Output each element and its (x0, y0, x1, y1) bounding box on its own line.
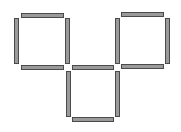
matchstick-vertical (14, 18, 19, 64)
matchstick-horizontal (121, 12, 164, 17)
matchstick-vertical (165, 18, 170, 64)
matchstick-vertical (115, 71, 120, 117)
matchstick-horizontal (72, 65, 114, 70)
matchstick-horizontal (72, 117, 114, 122)
matchstick-horizontal (121, 64, 164, 69)
matchstick-vertical (115, 18, 120, 64)
matchstick-horizontal (21, 13, 64, 18)
matchstick-vertical (65, 18, 70, 64)
matchstick-vertical (66, 71, 71, 117)
matchstick-puzzle (0, 0, 181, 132)
matchstick-horizontal (21, 65, 64, 70)
